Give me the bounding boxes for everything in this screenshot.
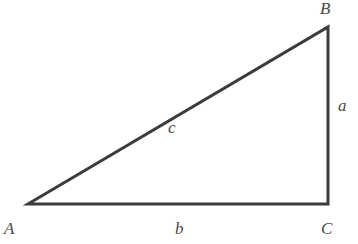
right-triangle-diagram: A B C c a b [0,0,358,244]
vertex-label-a: A [3,219,15,238]
triangle-abc [28,27,328,204]
side-label-b: b [175,219,184,238]
side-label-c: c [168,118,176,137]
side-label-a: a [338,96,347,115]
vertex-label-c: C [321,219,333,238]
vertex-label-b: B [320,0,331,18]
